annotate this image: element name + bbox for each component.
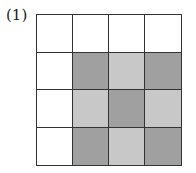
grid-cell-1-2 xyxy=(109,53,145,91)
grid-cell-1-1 xyxy=(73,53,109,91)
grid-cell-0-0 xyxy=(37,15,73,53)
figure-label: (1) xyxy=(6,6,27,24)
grid-cell-2-2 xyxy=(109,90,145,128)
grid-cell-0-3 xyxy=(145,15,181,53)
grid-cell-1-0 xyxy=(37,53,73,91)
grid-cell-3-2 xyxy=(109,128,145,166)
grid-cell-3-1 xyxy=(73,128,109,166)
grid-cell-0-2 xyxy=(109,15,145,53)
grid-cell-0-1 xyxy=(73,15,109,53)
grid-cell-1-3 xyxy=(145,53,181,91)
grid-cell-3-0 xyxy=(37,128,73,166)
shaded-grid xyxy=(36,14,182,166)
grid-cell-3-3 xyxy=(145,128,181,166)
grid-cell-2-3 xyxy=(145,90,181,128)
grid-cell-2-1 xyxy=(73,90,109,128)
grid-cell-2-0 xyxy=(37,90,73,128)
